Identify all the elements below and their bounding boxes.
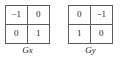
roberts-kernel-figure: −1 0 0 1 Gx 0 −1 1 0 Gy [0,0,120,63]
matrix-cell-gy-r0c0: 0 [69,6,91,25]
kernel-gy: 0 −1 1 0 Gy [68,0,114,63]
matrix-cell-gx-r0c1: 0 [28,6,50,25]
matrix-grid-gy: 0 −1 1 0 [68,5,113,44]
matrix-cell-gy-r0c1: −1 [91,6,113,25]
matrix-cell-gx-r1c1: 1 [28,25,50,44]
matrix-cell-gx-r0c0: −1 [6,6,28,25]
matrix-cell-gy-r1c1: 0 [91,25,113,44]
matrix-grid-gx: −1 0 0 1 [5,5,50,44]
matrix-cell-gx-r1c0: 0 [6,25,28,44]
matrix-cell-gy-r1c0: 1 [69,25,91,44]
kernel-label-gx: Gx [5,46,50,56]
kernel-gx: −1 0 0 1 Gx [5,0,51,63]
kernel-label-gy: Gy [68,46,113,56]
